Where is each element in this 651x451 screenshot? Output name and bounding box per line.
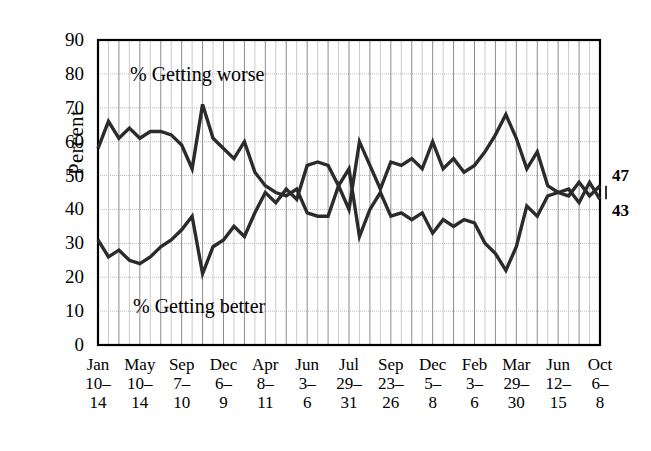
y-axis-tick-label: 80 (44, 64, 84, 83)
y-axis-tick-label: 20 (44, 267, 84, 286)
y-axis-tick-label: 40 (44, 199, 84, 218)
y-axis-tick-label: 70 (44, 98, 84, 117)
y-axis-tick-label: 50 (44, 166, 84, 185)
y-axis-tick-label: 60 (44, 132, 84, 151)
series-annotation: % Getting better (133, 295, 265, 318)
series-end-value-label: 43 (612, 201, 629, 221)
x-axis-tick-label: Oct6–8 (572, 355, 628, 412)
y-axis-tick-label: 90 (44, 30, 84, 49)
series-annotation: % Getting worse (130, 63, 264, 86)
series-end-value-label: 47 (612, 166, 629, 186)
y-axis-tick-label: 30 (44, 233, 84, 252)
chart-container: Percent 0102030405060708090 Jan10–14May1… (0, 0, 651, 451)
y-axis-tick-label: 0 (44, 335, 84, 354)
y-axis-tick-label: 10 (44, 301, 84, 320)
